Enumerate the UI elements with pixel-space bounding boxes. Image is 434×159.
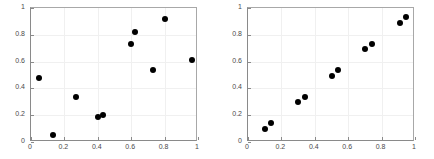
x-axis-tick bbox=[415, 137, 416, 140]
y-axis-tick-label: 0.4 bbox=[0, 83, 25, 91]
x-axis-tick-label: 0.8 bbox=[159, 143, 169, 151]
scatter-panel-right: 00.20.40.60.8100.20.40.60.81 bbox=[217, 0, 434, 159]
x-axis-tick bbox=[348, 137, 349, 140]
data-point bbox=[189, 57, 195, 63]
gridline-vertical bbox=[315, 8, 316, 140]
y-axis-tick-label: 0.8 bbox=[0, 30, 25, 38]
plot-area-right bbox=[247, 7, 414, 141]
x-axis-tick-label: 0.4 bbox=[309, 143, 319, 151]
x-axis-tick bbox=[165, 137, 166, 140]
scatter-panel-left: 00.20.40.60.8100.20.40.60.81 bbox=[0, 0, 217, 159]
x-axis-tick bbox=[315, 137, 316, 140]
y-axis-tick bbox=[31, 62, 34, 63]
x-axis-tick bbox=[198, 137, 199, 140]
data-point bbox=[262, 126, 268, 132]
x-axis-tick-label: 0.6 bbox=[342, 143, 352, 151]
data-point bbox=[369, 41, 375, 47]
gridline-vertical bbox=[281, 8, 282, 140]
gridline-horizontal bbox=[31, 115, 196, 116]
data-point bbox=[73, 94, 79, 100]
x-axis-tick-label: 0 bbox=[245, 143, 249, 151]
y-axis-tick bbox=[31, 88, 34, 89]
gridline-horizontal bbox=[31, 35, 196, 36]
x-axis-tick bbox=[131, 137, 132, 140]
gridline-horizontal bbox=[31, 88, 196, 89]
y-axis-tick bbox=[31, 35, 34, 36]
y-axis-tick-label: 1 bbox=[217, 3, 242, 11]
gridline-horizontal bbox=[248, 35, 413, 36]
data-point bbox=[397, 20, 403, 26]
data-point bbox=[295, 99, 301, 105]
data-point bbox=[36, 75, 42, 81]
x-axis-tick-label: 0.8 bbox=[376, 143, 386, 151]
gridline-vertical bbox=[131, 8, 132, 140]
gridline-vertical bbox=[348, 8, 349, 140]
y-axis-tick bbox=[248, 35, 251, 36]
y-axis-tick bbox=[248, 8, 251, 9]
data-point bbox=[362, 46, 368, 52]
x-axis-tick-label: 1 bbox=[195, 143, 199, 151]
data-point bbox=[329, 73, 335, 79]
x-axis-tick bbox=[248, 137, 249, 140]
data-point bbox=[403, 14, 409, 20]
x-axis-tick bbox=[382, 137, 383, 140]
data-point bbox=[335, 67, 341, 73]
y-axis-tick-label: 1 bbox=[0, 3, 25, 11]
gridline-vertical bbox=[165, 8, 166, 140]
y-axis-tick bbox=[248, 88, 251, 89]
y-axis-tick bbox=[248, 62, 251, 63]
y-axis-tick bbox=[31, 8, 34, 9]
x-axis-tick-label: 0.4 bbox=[92, 143, 102, 151]
data-point bbox=[268, 120, 274, 126]
y-axis-tick-label: 0.2 bbox=[217, 110, 242, 118]
y-axis-tick-label: 0.4 bbox=[217, 83, 242, 91]
gridline-horizontal bbox=[31, 62, 196, 63]
x-axis-tick-label: 0.6 bbox=[125, 143, 135, 151]
y-axis-tick bbox=[248, 115, 251, 116]
y-axis-tick-label: 0.8 bbox=[217, 30, 242, 38]
x-axis-tick bbox=[98, 137, 99, 140]
gridline-horizontal bbox=[248, 88, 413, 89]
gridline-horizontal bbox=[248, 115, 413, 116]
x-axis-tick-label: 1 bbox=[412, 143, 416, 151]
y-axis-tick-label: 0.6 bbox=[217, 57, 242, 65]
x-axis-tick bbox=[281, 137, 282, 140]
scatter-plot-figure: 00.20.40.60.8100.20.40.60.81 00.20.40.60… bbox=[0, 0, 434, 159]
data-point bbox=[50, 132, 56, 138]
y-axis-tick bbox=[31, 115, 34, 116]
gridline-vertical bbox=[382, 8, 383, 140]
x-axis-tick bbox=[64, 137, 65, 140]
gridline-vertical bbox=[98, 8, 99, 140]
data-point bbox=[128, 41, 134, 47]
y-axis-tick-label: 0 bbox=[0, 137, 25, 145]
y-axis-tick-label: 0.6 bbox=[0, 57, 25, 65]
gridline-vertical bbox=[64, 8, 65, 140]
y-axis-tick-label: 0.2 bbox=[0, 110, 25, 118]
plot-area-left bbox=[30, 7, 197, 141]
x-axis-tick-label: 0.2 bbox=[276, 143, 286, 151]
x-axis-tick bbox=[31, 137, 32, 140]
data-point bbox=[132, 29, 138, 35]
x-axis-tick-label: 0.2 bbox=[59, 143, 69, 151]
gridline-horizontal bbox=[248, 62, 413, 63]
data-point bbox=[302, 94, 308, 100]
y-axis-tick-label: 0 bbox=[217, 137, 242, 145]
data-point bbox=[162, 16, 168, 22]
data-point bbox=[100, 112, 106, 118]
x-axis-tick-label: 0 bbox=[28, 143, 32, 151]
data-point bbox=[150, 67, 156, 73]
